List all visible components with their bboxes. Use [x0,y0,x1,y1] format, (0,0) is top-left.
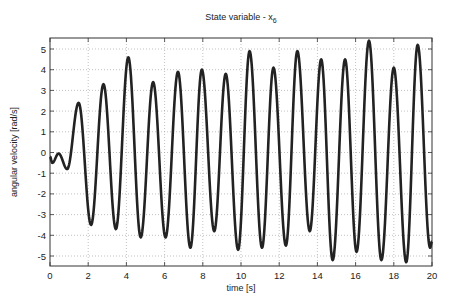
x-tick-label: 2 [86,270,91,281]
signal-line [50,41,432,262]
y-tick-label: 0 [41,147,46,158]
x-tick-label: 18 [389,270,400,281]
x-tick-labels: 02468101214161820 [47,270,437,281]
x-tick-label: 16 [350,270,361,281]
chart-title: State variable - x6 [205,12,277,24]
y-tick-label: 2 [41,106,46,117]
x-tick-label: 12 [274,270,285,281]
y-tick-label: -1 [38,168,46,179]
x-tick-label: 20 [427,270,438,281]
x-tick-label: 8 [200,270,205,281]
y-axis-label: angular velocity [rad/s] [9,107,19,197]
y-tick-label: 3 [41,85,46,96]
x-tick-label: 4 [124,270,129,281]
x-tick-label: 10 [236,270,247,281]
y-tick-labels: -5-4-3-2-1012345 [38,44,46,262]
y-tick-label: -3 [38,209,46,220]
x-tick-label: 0 [47,270,52,281]
x-tick-label: 6 [162,270,167,281]
y-tick-label: 5 [41,44,46,55]
y-tick-label: 4 [41,64,46,75]
chart: 02468101214161820 -5-4-3-2-1012345 State… [0,0,453,307]
y-tick-label: -4 [38,230,46,241]
y-tick-label: -2 [38,188,46,199]
y-tick-label: -5 [38,251,46,262]
x-axis-label: time [s] [226,283,255,293]
y-tick-label: 1 [41,126,46,137]
x-tick-label: 14 [312,270,323,281]
